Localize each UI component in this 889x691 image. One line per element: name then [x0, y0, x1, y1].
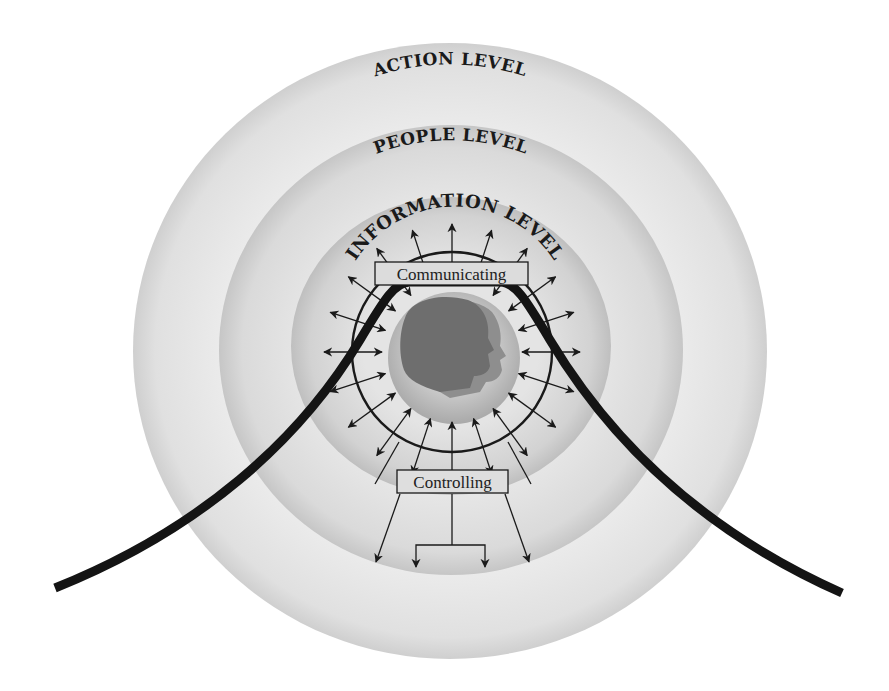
communicating-label: Communicating: [397, 265, 507, 284]
management-levels-diagram: ACTION LEVEL PEOPLE LEVEL INFORMATION LE…: [0, 0, 889, 691]
controlling-box: Controlling: [397, 470, 508, 493]
controlling-label: Controlling: [413, 473, 492, 492]
communicating-box: Communicating: [375, 262, 528, 285]
